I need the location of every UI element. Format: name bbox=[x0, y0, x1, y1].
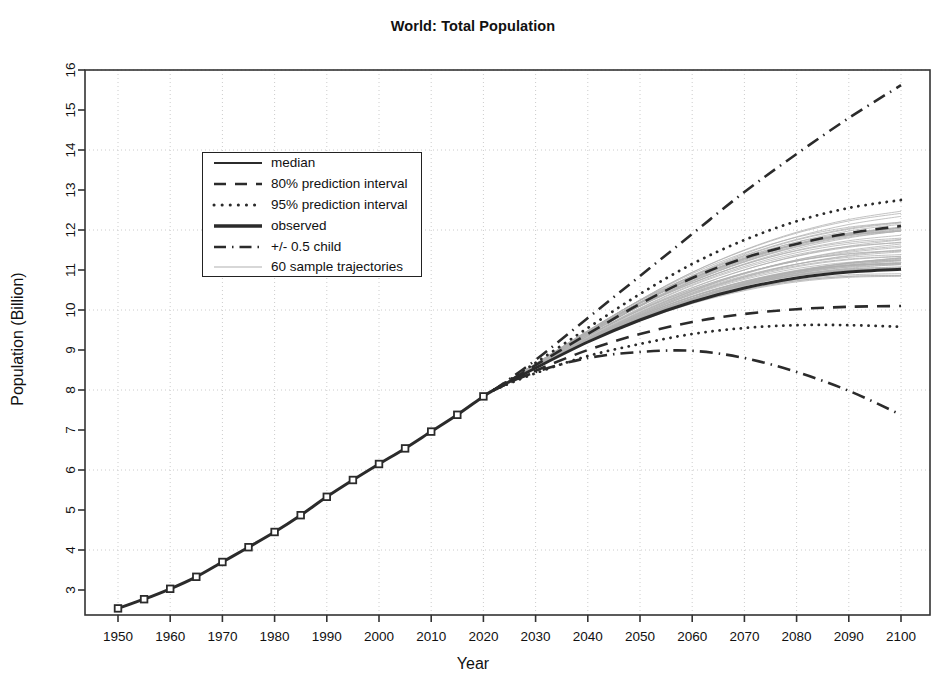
svg-text:2050: 2050 bbox=[625, 629, 655, 644]
svg-text:1990: 1990 bbox=[312, 629, 342, 644]
svg-text:2060: 2060 bbox=[677, 629, 707, 644]
legend-key-dashed-line bbox=[212, 177, 264, 191]
legend-item: 60 sample trajectories bbox=[203, 257, 421, 278]
svg-text:1980: 1980 bbox=[260, 629, 290, 644]
svg-text:13: 13 bbox=[63, 182, 78, 197]
svg-text:5: 5 bbox=[63, 506, 78, 514]
svg-text:14: 14 bbox=[63, 142, 78, 158]
svg-text:3: 3 bbox=[63, 586, 78, 594]
svg-text:2020: 2020 bbox=[468, 629, 498, 644]
legend-key-dotted-line bbox=[212, 198, 264, 212]
svg-text:16: 16 bbox=[63, 62, 78, 77]
svg-text:12: 12 bbox=[63, 222, 78, 237]
legend-key-dash-dot-line bbox=[212, 240, 264, 254]
svg-text:4: 4 bbox=[63, 546, 78, 554]
legend-item: +/- 0.5 child bbox=[203, 236, 421, 257]
svg-text:2000: 2000 bbox=[364, 629, 394, 644]
legend-label: 95% prediction interval bbox=[271, 198, 408, 212]
legend-item: median bbox=[203, 153, 421, 174]
population-projection-chart: 1950196019701980199020002010202020302040… bbox=[0, 0, 946, 689]
legend-key-solid-line bbox=[212, 156, 264, 170]
legend-label: 60 sample trajectories bbox=[271, 260, 403, 274]
legend: median 80% prediction interval 95% predi… bbox=[202, 152, 422, 277]
legend-key-thick-solid-line bbox=[212, 219, 264, 233]
svg-text:2090: 2090 bbox=[834, 629, 864, 644]
svg-text:8: 8 bbox=[63, 386, 78, 394]
legend-item: observed bbox=[203, 215, 421, 236]
svg-text:7: 7 bbox=[63, 426, 78, 434]
svg-text:10: 10 bbox=[63, 302, 78, 317]
legend-label: median bbox=[271, 156, 315, 170]
chart-page: World: Total Population Population (Bill… bbox=[0, 0, 946, 689]
legend-key-thin-gray-line bbox=[212, 260, 264, 274]
svg-text:1960: 1960 bbox=[155, 629, 185, 644]
legend-label: +/- 0.5 child bbox=[271, 240, 341, 254]
svg-text:2010: 2010 bbox=[416, 629, 446, 644]
svg-text:2080: 2080 bbox=[782, 629, 812, 644]
legend-label: 80% prediction interval bbox=[271, 177, 408, 191]
svg-text:2030: 2030 bbox=[521, 629, 551, 644]
svg-text:11: 11 bbox=[63, 263, 78, 277]
svg-text:1970: 1970 bbox=[207, 629, 237, 644]
legend-label: observed bbox=[271, 219, 327, 233]
svg-text:1950: 1950 bbox=[103, 629, 133, 644]
svg-text:2040: 2040 bbox=[573, 629, 603, 644]
svg-text:15: 15 bbox=[63, 102, 78, 117]
svg-text:9: 9 bbox=[63, 346, 78, 354]
svg-text:6: 6 bbox=[63, 466, 78, 474]
svg-text:2100: 2100 bbox=[886, 629, 916, 644]
legend-item: 95% prediction interval bbox=[203, 195, 421, 216]
legend-item: 80% prediction interval bbox=[203, 174, 421, 195]
svg-text:2070: 2070 bbox=[729, 629, 759, 644]
